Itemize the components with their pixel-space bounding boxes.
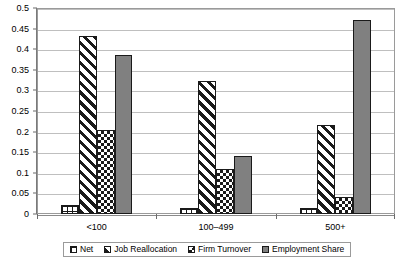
y-tick-label: 0.5 <box>16 4 29 13</box>
legend-label: Firm Turnover <box>198 245 251 254</box>
x-axis: <100100–499500+ <box>37 214 395 238</box>
legend-swatch-icon <box>70 246 77 253</box>
x-category-label: 100–499 <box>198 222 233 232</box>
legend-swatch-icon <box>262 246 269 253</box>
legend-swatch-icon <box>104 246 111 253</box>
bar-chart: 00.050.10.150.20.250.30.350.40.450.5 <10… <box>0 0 402 263</box>
bar <box>79 36 97 214</box>
legend-label: Job Reallocation <box>114 245 177 254</box>
legend-label: Employment Share <box>272 245 344 254</box>
bar <box>317 125 335 214</box>
y-tick-label: 0.05 <box>11 189 29 198</box>
bar <box>234 156 252 214</box>
y-tick-label: 0.4 <box>16 45 29 54</box>
bar-group <box>156 8 275 214</box>
legend-label: Net <box>80 245 93 254</box>
chart-legend: NetJob ReallocationFirm TurnoverEmployme… <box>63 242 351 257</box>
bar <box>216 169 234 214</box>
bar-group <box>37 8 156 214</box>
x-tick-mark <box>394 214 395 219</box>
bar <box>61 205 79 214</box>
y-axis: 00.050.10.150.20.250.30.350.40.450.5 <box>0 0 37 263</box>
legend-item[interactable]: Job Reallocation <box>104 245 177 254</box>
legend-item[interactable]: Firm Turnover <box>188 245 251 254</box>
bar <box>97 130 115 214</box>
x-category-label: <100 <box>87 222 107 232</box>
y-tick-label: 0.3 <box>16 86 29 95</box>
y-tick-label: 0.2 <box>16 127 29 136</box>
y-tick-label: 0.25 <box>11 107 29 116</box>
x-category-label: 500+ <box>325 222 345 232</box>
bar <box>115 55 133 214</box>
bars-layer <box>37 8 395 214</box>
bar-group <box>276 8 395 214</box>
y-tick-label: 0 <box>24 210 29 219</box>
y-tick-label: 0.1 <box>16 168 29 177</box>
y-tick-label: 0.45 <box>11 24 29 33</box>
y-tick-label: 0.15 <box>11 148 29 157</box>
legend-swatch-icon <box>188 246 195 253</box>
x-tick-mark <box>37 214 38 219</box>
bar <box>335 197 353 214</box>
x-tick-mark <box>156 214 157 219</box>
x-tick-mark <box>276 214 277 219</box>
bar <box>198 81 216 214</box>
y-tick-label: 0.35 <box>11 65 29 74</box>
legend-item[interactable]: Net <box>70 245 93 254</box>
bar <box>353 20 371 214</box>
legend-item[interactable]: Employment Share <box>262 245 344 254</box>
